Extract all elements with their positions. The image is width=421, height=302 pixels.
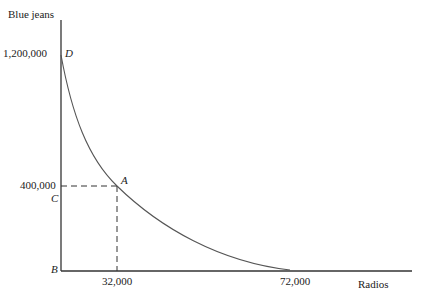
y-tick-400000: 400,000 — [20, 180, 56, 191]
y-axis-label: Blue jeans — [8, 9, 54, 20]
x-tick-72000: 72,000 — [280, 276, 310, 287]
chart-canvas — [0, 0, 421, 302]
point-b-label: B — [51, 264, 58, 275]
point-c-label: C — [51, 193, 58, 204]
x-tick-32000: 32,000 — [102, 276, 132, 287]
y-tick-1200000: 1,200,000 — [3, 48, 47, 59]
point-a-label: A — [121, 175, 128, 186]
point-d-label: D — [65, 48, 73, 59]
x-axis-label: Radios — [358, 279, 389, 290]
ppf-curve — [61, 55, 290, 270]
